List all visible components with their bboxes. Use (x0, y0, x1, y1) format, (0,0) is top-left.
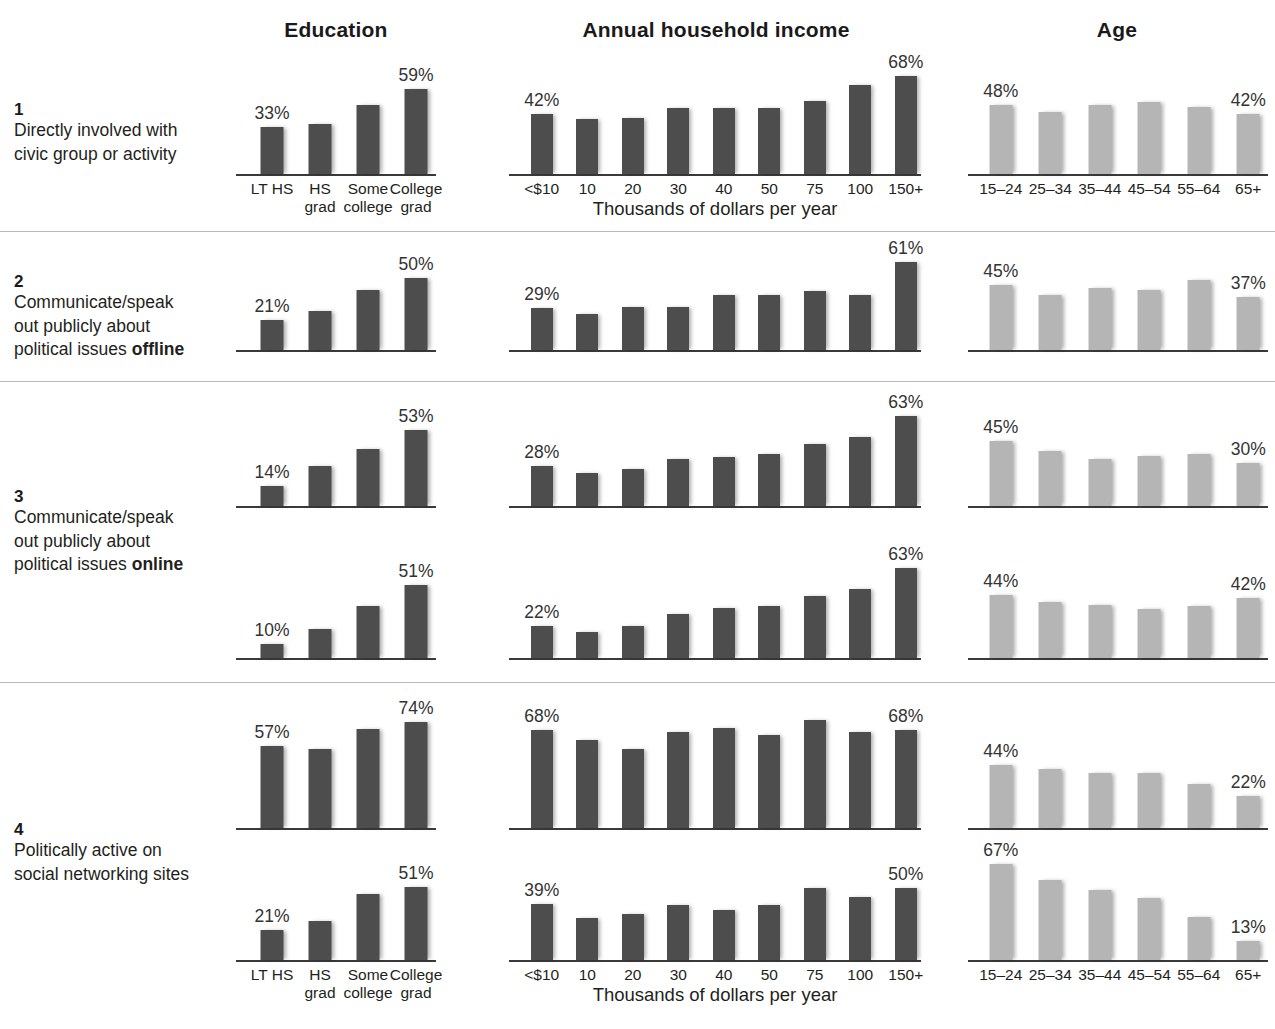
bar (989, 864, 1012, 960)
bar-group: 68% (883, 24, 929, 174)
bar-group: 48% (976, 24, 1026, 174)
bar (1187, 454, 1210, 506)
bar (849, 897, 871, 960)
bar (1237, 297, 1260, 350)
bar (713, 295, 735, 350)
bar-value-label: 50% (888, 864, 923, 885)
bar (1187, 606, 1210, 658)
bar-value-label: 51% (398, 561, 433, 582)
panel-income-row-3b: 22%63% (509, 500, 921, 660)
bar-group (1125, 810, 1175, 960)
bar (895, 568, 917, 658)
bar-value-label: 21% (254, 296, 289, 317)
bar (357, 290, 380, 350)
bar (357, 606, 380, 658)
bar-group (610, 200, 656, 350)
row-description: Communicate/speakout publicly aboutpolit… (14, 291, 229, 362)
panel-income-row-3a: 28%63% (509, 348, 921, 508)
bar (1187, 107, 1210, 174)
row-label-4: 4Politically active onsocial networking … (14, 820, 229, 886)
bar (804, 888, 826, 960)
bar-series-income: 39%50% (509, 810, 921, 960)
bar (667, 459, 689, 506)
bar-group (792, 810, 838, 960)
bar-group (296, 24, 344, 174)
bar-group (1174, 356, 1224, 506)
bar (804, 596, 826, 658)
bar (1187, 917, 1210, 960)
bar-group: 50% (883, 810, 929, 960)
bar (1237, 598, 1260, 658)
bar-group (1075, 356, 1125, 506)
bar-series-income: 22%63% (509, 508, 921, 658)
bar-group (1026, 200, 1076, 350)
bar-group: 29% (519, 200, 565, 350)
bar (804, 101, 826, 174)
bar-group: 63% (883, 356, 929, 506)
bar (357, 449, 380, 506)
bar-group (610, 810, 656, 960)
bar-value-label: 59% (398, 65, 433, 86)
bar-group (1026, 24, 1076, 174)
bar-group (1125, 24, 1175, 174)
axis-baseline (236, 658, 436, 660)
bar-group (792, 24, 838, 174)
bar-group (656, 810, 702, 960)
bar-group (838, 810, 884, 960)
bar (667, 108, 689, 174)
bar-group (838, 356, 884, 506)
bar-group (565, 24, 611, 174)
bar-group: 44% (976, 508, 1026, 658)
bar-value-label: 61% (888, 238, 923, 259)
bar-group (1125, 508, 1175, 658)
bar-group: 33% (248, 24, 296, 174)
bar (667, 905, 689, 960)
bar-group (656, 356, 702, 506)
bar-value-label: 22% (524, 602, 559, 623)
bar-value-label: 68% (888, 706, 923, 727)
bar-group (565, 810, 611, 960)
bar (713, 108, 735, 174)
bar-value-label: 30% (1231, 439, 1266, 460)
bar-group (565, 508, 611, 658)
bar-group: 42% (519, 24, 565, 174)
bar-group (1026, 508, 1076, 658)
bar-value-label: 14% (254, 462, 289, 483)
row-description: Politically active onsocial networking s… (14, 839, 229, 886)
bar-value-label: 10% (254, 620, 289, 641)
bar-value-label: 44% (983, 571, 1018, 592)
bar-group (747, 508, 793, 658)
bar (989, 285, 1012, 350)
bar-group (838, 200, 884, 350)
bar-series-age: 45%37% (968, 200, 1268, 350)
bar-value-label: 68% (888, 52, 923, 73)
bar-value-label: 48% (983, 81, 1018, 102)
bar-group (610, 508, 656, 658)
bar-group (296, 810, 344, 960)
bar-group: 45% (976, 200, 1026, 350)
bar-value-label: 45% (983, 261, 1018, 282)
bar-group (747, 356, 793, 506)
row-number: 1 (14, 100, 229, 119)
bar-value-label: 13% (1231, 917, 1266, 938)
axis-baseline (968, 658, 1268, 660)
bar-group: 51% (392, 810, 440, 960)
bar-series-income: 28%63% (509, 356, 921, 506)
bar-value-label: 50% (398, 254, 433, 275)
bar (622, 118, 644, 174)
bar-group: 14% (248, 356, 296, 506)
bar-value-label: 53% (398, 406, 433, 427)
bar (1138, 609, 1161, 658)
bar-group (1026, 810, 1076, 960)
bar-series-education: 33%59% (236, 24, 436, 174)
bar-group (1075, 24, 1125, 174)
bar-group (610, 24, 656, 174)
bar-group: 63% (883, 508, 929, 658)
row-number: 4 (14, 820, 229, 839)
bar (989, 105, 1012, 174)
bar (1039, 880, 1062, 960)
bar (1039, 451, 1062, 506)
bar (1039, 602, 1062, 658)
bar (713, 457, 735, 506)
bar-value-label: 45% (983, 417, 1018, 438)
